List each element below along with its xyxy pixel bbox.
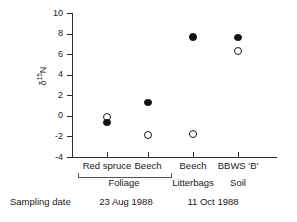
y-tick-8: [67, 34, 72, 35]
data-point-filled-red-spruce: [103, 119, 111, 127]
data-point-filled-beech-foliage: [144, 99, 152, 107]
x-axis-line: [72, 157, 277, 158]
data-point-filled-bbws-b-soil: [234, 34, 242, 42]
x-tick-beech-foliage: [148, 152, 149, 157]
y-tick-label-6: 6: [45, 50, 63, 59]
sampling-date-litterbags-soil: 11 Oct 1988: [175, 196, 251, 207]
data-point-filled-beech-litterbags: [189, 33, 197, 41]
y-tick-6: [67, 54, 72, 55]
y-axis-title-superscript: 15: [36, 73, 43, 80]
y-tick-label-2: 2: [45, 91, 63, 100]
y-tick-2: [67, 95, 72, 96]
group-label-soil: Soil: [214, 177, 262, 188]
category-label-beech-foliage: Beech: [124, 160, 172, 171]
y-axis-line: [72, 13, 73, 157]
y-tick-label-8: 8: [45, 29, 63, 38]
x-tick-bbws-b-soil: [238, 152, 239, 157]
category-label-bbws-b: BBWS 'B': [209, 160, 267, 171]
x-tick-beech-litterbags: [193, 152, 194, 157]
y-tick-minus2: [67, 136, 72, 137]
y-tick-label-0: 0: [45, 111, 63, 120]
y-tick-0: [67, 116, 72, 117]
data-point-open-beech-foliage: [144, 131, 152, 139]
y-tick-10: [67, 13, 72, 14]
y-tick-label-4: 4: [45, 70, 63, 79]
y-axis-title-delta: δ: [38, 80, 48, 85]
y-tick-minus4: [67, 157, 72, 158]
sampling-date-foliage: 23 Aug 1988: [88, 196, 164, 207]
y-tick-4: [67, 75, 72, 76]
y-tick-label-minus4: -4: [45, 153, 63, 162]
delta-n15-scatter-chart: δ15N 10 8 6 4 2 0 -2 -4 Red spruce Beech…: [0, 0, 297, 222]
group-label-foliage: Foliage: [94, 177, 154, 188]
data-point-open-beech-litterbags: [189, 130, 197, 138]
data-point-open-bbws-b-soil: [234, 47, 242, 55]
x-tick-red-spruce: [107, 152, 108, 157]
y-tick-label-10: 10: [45, 9, 63, 18]
y-tick-label-minus2: -2: [45, 132, 63, 141]
sampling-date-row-title: Sampling date: [10, 196, 71, 207]
